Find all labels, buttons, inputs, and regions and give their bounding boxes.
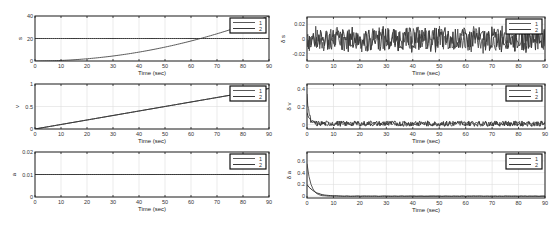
x-axis-label: Time (sec) — [412, 207, 440, 213]
legend-entry: 2 — [259, 26, 262, 32]
x-tick-label: 0 — [305, 200, 308, 206]
y-tick-label: 0.5 — [25, 104, 33, 110]
y-tick-label: 0 — [30, 126, 33, 132]
y-tick-label: 0.4 — [297, 170, 305, 176]
legend-entry: 2 — [259, 162, 262, 168]
y-tick-label: -0.02 — [292, 51, 305, 57]
x-tick-label: 30 — [110, 131, 116, 137]
x-tick-label: 70 — [214, 199, 220, 205]
x-axis-label: Time (sec) — [412, 138, 440, 144]
x-tick-label: 50 — [162, 199, 168, 205]
legend: 12 — [230, 154, 266, 169]
x-tick-label: 10 — [330, 63, 336, 69]
plot-ds: 0102030405060708090-0.0200.02Time (sec)δ… — [280, 17, 548, 76]
x-tick-label: 70 — [214, 63, 220, 69]
legend-entry: 2 — [535, 27, 538, 33]
legend: 12 — [230, 86, 266, 101]
x-tick-label: 0 — [33, 131, 36, 137]
x-tick-label: 20 — [84, 131, 90, 137]
y-axis-label: δ a — [286, 170, 292, 179]
plot-dv: 010203040506070809000.20.4Time (sec)δ v1… — [286, 84, 548, 144]
x-tick-label: 20 — [84, 63, 90, 69]
x-tick-label: 80 — [240, 131, 246, 137]
x-tick-label: 10 — [58, 199, 64, 205]
x-tick-label: 30 — [383, 63, 389, 69]
x-tick-label: 60 — [188, 131, 194, 137]
x-tick-label: 50 — [436, 131, 442, 137]
y-tick-label: 0 — [302, 36, 305, 42]
x-tick-label: 0 — [305, 63, 308, 69]
x-tick-label: 20 — [357, 131, 363, 137]
legend-entry: 2 — [259, 94, 262, 100]
x-tick-label: 70 — [214, 131, 220, 137]
x-tick-label: 40 — [136, 199, 142, 205]
y-tick-label: 0.02 — [22, 149, 33, 155]
x-tick-label: 50 — [162, 63, 168, 69]
x-tick-label: 50 — [162, 131, 168, 137]
plot-v: 010203040506070809000.51Time (sec)v12 — [14, 81, 272, 144]
legend: 12 — [506, 19, 542, 34]
x-tick-label: 40 — [410, 200, 416, 206]
x-tick-label: 30 — [110, 199, 116, 205]
x-tick-label: 0 — [305, 131, 308, 137]
x-tick-label: 50 — [436, 63, 442, 69]
x-tick-label: 80 — [240, 199, 246, 205]
x-tick-label: 20 — [84, 199, 90, 205]
x-tick-label: 60 — [188, 199, 194, 205]
x-tick-label: 60 — [463, 200, 469, 206]
x-tick-label: 90 — [266, 199, 272, 205]
x-axis-label: Time (sec) — [138, 70, 166, 76]
x-tick-label: 30 — [110, 63, 116, 69]
x-tick-label: 20 — [357, 63, 363, 69]
y-axis-label: s — [17, 37, 23, 40]
x-tick-label: 10 — [330, 131, 336, 137]
legend-entry: 2 — [535, 162, 538, 168]
x-tick-label: 70 — [489, 131, 495, 137]
y-tick-label: 40 — [27, 13, 33, 19]
x-tick-label: 90 — [542, 63, 548, 69]
x-axis-label: Time (sec) — [138, 206, 166, 212]
y-tick-label: 0.6 — [297, 158, 305, 164]
legend: 12 — [230, 18, 266, 33]
plot-a: 010203040506070809000.010.02Time (sec)a1… — [11, 149, 272, 212]
x-tick-label: 30 — [383, 200, 389, 206]
x-tick-label: 40 — [136, 131, 142, 137]
x-tick-label: 10 — [330, 200, 336, 206]
y-tick-label: 0.01 — [22, 172, 33, 178]
x-tick-label: 90 — [542, 131, 548, 137]
x-tick-label: 80 — [515, 200, 521, 206]
x-tick-label: 80 — [240, 63, 246, 69]
x-tick-label: 90 — [266, 131, 272, 137]
x-tick-label: 20 — [357, 200, 363, 206]
plot-s: 010203040506070809002040Time (sec)s12 — [17, 13, 272, 76]
x-axis-label: Time (sec) — [138, 138, 166, 144]
x-tick-label: 80 — [515, 63, 521, 69]
y-tick-label: 0 — [302, 193, 305, 199]
x-tick-label: 50 — [436, 200, 442, 206]
y-axis-label: v — [14, 105, 20, 108]
x-tick-label: 10 — [58, 131, 64, 137]
y-tick-label: 0 — [302, 122, 305, 128]
y-tick-label: 0.2 — [297, 181, 305, 187]
y-tick-label: 20 — [27, 36, 33, 42]
x-tick-label: 60 — [463, 131, 469, 137]
x-tick-label: 70 — [489, 200, 495, 206]
x-tick-label: 10 — [58, 63, 64, 69]
y-axis-label: δ v — [286, 102, 292, 110]
y-axis-label: a — [11, 172, 17, 176]
x-tick-label: 90 — [266, 63, 272, 69]
y-tick-label: 0.4 — [297, 86, 305, 92]
x-tick-label: 80 — [515, 131, 521, 137]
x-tick-label: 40 — [410, 63, 416, 69]
x-tick-label: 0 — [33, 63, 36, 69]
legend: 12 — [506, 86, 542, 101]
x-tick-label: 0 — [33, 199, 36, 205]
y-tick-label: 0.02 — [294, 21, 305, 27]
plot-da: 010203040506070809000.20.40.6Time (sec)δ… — [286, 152, 548, 213]
x-axis-label: Time (sec) — [412, 70, 440, 76]
y-tick-label: 0 — [30, 58, 33, 64]
legend: 12 — [506, 154, 542, 169]
x-tick-label: 90 — [542, 200, 548, 206]
y-axis-label: δ s — [280, 35, 286, 43]
figure-canvas: 010203040506070809002040Time (sec)s12010… — [0, 0, 560, 227]
